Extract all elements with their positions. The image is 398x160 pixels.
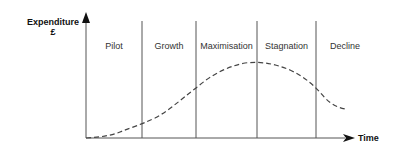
phase-label-stagnation: Stagnation (257, 41, 316, 51)
y-axis-label-line2: £ (20, 27, 86, 37)
phase-label-maximisation: Maximisation (196, 41, 257, 51)
y-axis-label: Expenditure £ (20, 17, 86, 37)
y-axis-label-line1: Expenditure (20, 17, 86, 27)
expenditure-curve (86, 62, 345, 138)
phase-label-decline: Decline (316, 41, 374, 51)
x-axis-label: Time (358, 133, 379, 143)
phase-label-pilot: Pilot (86, 41, 142, 51)
phase-label-growth: Growth (142, 41, 196, 51)
